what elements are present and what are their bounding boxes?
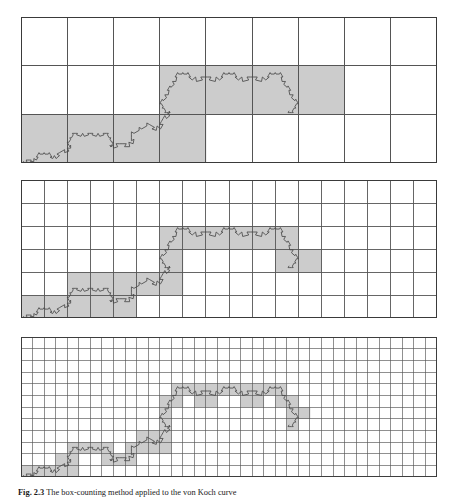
shaded-cell: [113, 272, 137, 295]
box-counting-grid-medium-svg: [21, 180, 437, 318]
shaded-cell: [90, 295, 114, 318]
shaded-cell: [67, 114, 114, 163]
shaded-cell: [194, 395, 206, 407]
shaded-cell: [67, 295, 91, 318]
grid-lines-layer: [21, 337, 437, 477]
shaded-cell: [183, 384, 195, 396]
shaded-cell: [113, 454, 125, 466]
shaded-cell: [44, 295, 68, 318]
shaded-cell: [160, 114, 207, 163]
figure-caption-text: The box-counting method applied to the v…: [46, 488, 236, 497]
shaded-cell: [252, 226, 276, 249]
shaded-cell: [275, 384, 287, 396]
shaded-cell: [275, 395, 287, 407]
shaded-cell: [298, 66, 345, 115]
shaded-cell: [171, 384, 183, 396]
figure-container: Fig. 2.3 The box-counting method applied…: [0, 0, 458, 501]
shaded-cell: [137, 430, 149, 442]
shaded-cell: [160, 442, 172, 454]
shaded-cell: [252, 384, 264, 396]
shaded-cell: [90, 272, 114, 295]
shaded-cell: [252, 395, 264, 407]
shaded-cell: [67, 272, 91, 295]
box-counting-grid-fine-svg: [21, 337, 437, 477]
shaded-cell: [79, 442, 91, 454]
shaded-cell: [298, 407, 310, 419]
figure-caption: Fig. 2.3 The box-counting method applied…: [18, 487, 448, 498]
shaded-cell: [160, 249, 184, 272]
shaded-cell: [229, 226, 253, 249]
shaded-cell: [160, 395, 172, 407]
shaded-cell: [125, 442, 137, 454]
shaded-cell: [125, 454, 137, 466]
shaded-cell: [113, 114, 160, 163]
shaded-cell: [21, 114, 68, 163]
shaded-cell: [56, 454, 68, 466]
shaded-cell: [160, 272, 184, 295]
shaded-cell: [206, 395, 218, 407]
shaded-cell: [67, 465, 79, 477]
shaded-cell: [298, 249, 322, 272]
panel-3: [21, 337, 437, 477]
box-counting-grid-coarse-svg: [21, 17, 437, 163]
panel-2: [21, 180, 437, 318]
shaded-cell: [183, 226, 207, 249]
shaded-cell: [241, 395, 253, 407]
shaded-cell: [206, 384, 218, 396]
figure-caption-label: Fig. 2.3: [18, 488, 44, 497]
panel-1: [21, 17, 437, 163]
shaded-cell: [21, 295, 45, 318]
shaded-cell: [160, 226, 184, 249]
shaded-cell: [206, 226, 230, 249]
shaded-cell: [229, 384, 241, 396]
shaded-cell: [275, 226, 299, 249]
shaded-cell: [137, 442, 149, 454]
